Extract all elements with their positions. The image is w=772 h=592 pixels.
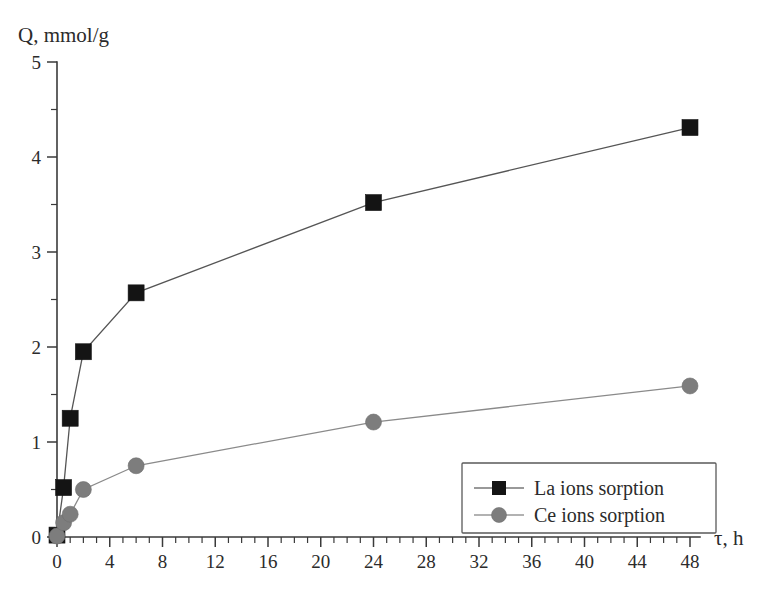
y-tick-label: 3	[32, 242, 42, 263]
y-tick-label: 5	[32, 52, 42, 73]
x-tick-label: 24	[364, 551, 384, 572]
legend-label-ce: Ce ions sorption	[534, 504, 665, 527]
x-tick-label: 44	[628, 551, 648, 572]
sorption-kinetics-chart: Q, mmol/g τ, h 012345 048121620242832364…	[0, 0, 772, 592]
x-tick-label: 4	[105, 551, 115, 572]
data-point-la	[56, 480, 72, 496]
y-axis-title: Q, mmol/g	[18, 23, 110, 47]
data-point-la	[75, 344, 91, 360]
y-tick-label: 4	[32, 147, 42, 168]
x-tick-label: 0	[52, 551, 62, 572]
x-tick-label: 12	[206, 551, 225, 572]
x-axis-ticks	[57, 537, 690, 547]
x-tick-label: 48	[681, 551, 700, 572]
y-axis-tick-labels: 012345	[32, 52, 42, 548]
x-tick-label: 20	[311, 551, 330, 572]
y-axis-ticks	[47, 62, 57, 537]
data-point-ce	[682, 378, 698, 394]
x-tick-label: 32	[470, 551, 489, 572]
x-tick-label: 40	[575, 551, 594, 572]
data-point-la	[62, 410, 78, 426]
x-tick-label: 8	[158, 551, 168, 572]
chart-page: Q, mmol/g τ, h 012345 048121620242832364…	[0, 0, 772, 592]
data-point-ce	[75, 482, 91, 498]
data-point-la	[128, 285, 144, 301]
data-point-la	[366, 195, 382, 211]
legend-label-la: La ions sorption	[534, 477, 664, 500]
y-tick-label: 0	[32, 527, 42, 548]
data-point-ce	[366, 414, 382, 430]
x-tick-label: 16	[259, 551, 278, 572]
circle-marker-icon	[492, 508, 507, 523]
y-tick-label: 1	[32, 432, 42, 453]
y-tick-label: 2	[32, 337, 42, 358]
data-point-ce	[128, 458, 144, 474]
x-tick-label: 28	[417, 551, 436, 572]
x-tick-label: 36	[522, 551, 541, 572]
chart-legend: La ions sorption Ce ions sorption	[462, 463, 716, 533]
data-point-la	[682, 120, 698, 136]
data-point-ce	[62, 506, 78, 522]
x-axis-tick-labels: 04812162024283236404448	[52, 551, 699, 572]
x-axis-title: τ, h	[714, 526, 744, 550]
square-marker-icon	[492, 481, 506, 495]
